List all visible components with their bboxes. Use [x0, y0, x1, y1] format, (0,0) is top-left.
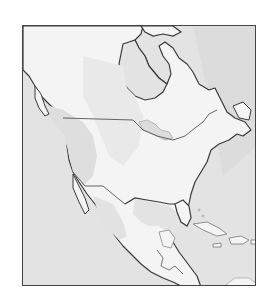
map-frame — [22, 25, 256, 286]
bahamas — [202, 215, 205, 218]
north-america-map — [23, 26, 256, 286]
jamaica — [213, 243, 221, 247]
bahamas — [198, 209, 201, 212]
puerto-rico — [251, 240, 256, 244]
